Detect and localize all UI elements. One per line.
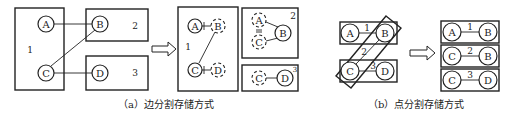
caption-b: （b）点分割存储方式: [368, 96, 464, 111]
edge-c-b: [51, 30, 95, 66]
panel-a-original: A C B D 1 2 3: [15, 8, 148, 90]
svg-text:3: 3: [467, 70, 473, 80]
svg-text:1: 1: [185, 42, 191, 52]
svg-text:1: 1: [364, 23, 370, 33]
svg-text:C: C: [448, 75, 456, 86]
svg-text:D: D: [214, 65, 222, 76]
svg-text:B: B: [484, 51, 491, 62]
svg-text:3: 3: [293, 66, 297, 74]
svg-text:2: 2: [290, 11, 296, 21]
svg-text:A: A: [254, 15, 263, 26]
svg-text:A: A: [190, 21, 199, 32]
svg-text:D: D: [281, 73, 289, 84]
caption-a: （a）边分割存储方式: [118, 96, 214, 111]
vertex-c-label: C: [42, 68, 50, 79]
panel-a-result: A B C D 1 A C B 2 C D 3: [178, 7, 298, 91]
vertex-a-label: A: [41, 19, 50, 30]
svg-text:B: B: [381, 28, 388, 39]
svg-text:2: 2: [361, 47, 367, 57]
vertex-b-label: B: [96, 19, 103, 30]
svg-text:C: C: [346, 66, 354, 77]
vertex-d-label: D: [96, 68, 104, 79]
hollow-right-arrow-icon: [410, 46, 435, 60]
svg-text:D: D: [381, 66, 389, 77]
hollow-right-arrow-icon: [152, 42, 176, 56]
svg-text:A: A: [447, 27, 456, 38]
svg-text:D: D: [484, 75, 492, 86]
partition-3-label: 3: [132, 68, 138, 78]
svg-text:C: C: [191, 65, 199, 76]
svg-text:C: C: [448, 51, 456, 62]
svg-text:B: B: [484, 27, 491, 38]
svg-text:C: C: [255, 37, 263, 48]
svg-text:2: 2: [467, 46, 473, 56]
svg-text:3: 3: [370, 61, 376, 71]
svg-text:C: C: [255, 73, 263, 84]
svg-text:A: A: [345, 28, 354, 39]
svg-text:B: B: [214, 21, 221, 32]
svg-text:B: B: [279, 28, 286, 39]
panel-b-result: A B C B C D 1 2 3: [441, 21, 499, 91]
partition-2-label: 2: [132, 21, 138, 31]
partition-1-label: 1: [27, 45, 33, 55]
panel-b-original: A B C D 1 2 3: [336, 16, 401, 88]
svg-text:1: 1: [467, 22, 473, 32]
